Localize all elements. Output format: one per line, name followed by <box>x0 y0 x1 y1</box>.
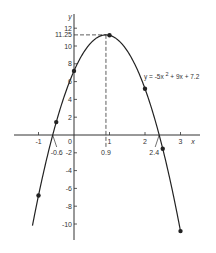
origin-label: 0 <box>68 138 72 145</box>
y-tick-label: 4 <box>68 96 72 103</box>
y-tick-label: 10 <box>64 43 72 50</box>
y-tick-label: -10 <box>62 221 72 228</box>
x-tick-label: 1 <box>108 138 112 145</box>
vertex-y-label: 11.25 <box>55 31 72 38</box>
data-point <box>107 33 111 37</box>
root-left-label: -0.6 <box>51 149 63 156</box>
data-point <box>161 147 165 151</box>
x-tick-label: 3 <box>179 138 183 145</box>
root-right-leader <box>155 135 159 147</box>
root-right-label: 2.4 <box>149 149 159 156</box>
x-tick-label: 2 <box>143 138 147 145</box>
root-left-leader <box>53 135 57 147</box>
parabola-curve <box>32 35 180 233</box>
data-point <box>72 69 76 73</box>
parabola-chart: -11230-10-8-6-4-224681012yx11.250.9-0.62… <box>0 0 216 253</box>
axes <box>14 14 200 240</box>
y-tick-label: 8 <box>68 60 72 67</box>
data-point <box>178 229 182 233</box>
x-tick-label: -1 <box>35 138 41 145</box>
y-tick-label: 6 <box>68 78 72 85</box>
equation-label: y = -5x 2 + 9x + 7.2 <box>144 71 200 81</box>
y-tick-label: -4 <box>66 167 72 174</box>
parabola-path <box>32 35 180 233</box>
x-axis-label: x <box>190 138 195 145</box>
data-point <box>36 193 40 197</box>
chart-labels: -11230-10-8-6-4-224681012yx11.250.9-0.62… <box>35 13 199 228</box>
y-tick-label: -2 <box>66 149 72 156</box>
y-axis-label: y <box>67 13 72 21</box>
y-tick-label: 2 <box>68 114 72 121</box>
vertex-x-label: 0.9 <box>101 149 111 156</box>
vertex-guides <box>53 35 160 147</box>
data-point <box>54 120 58 124</box>
y-tick-label: -6 <box>66 185 72 192</box>
data-point <box>143 87 147 91</box>
y-tick-label: -8 <box>66 203 72 210</box>
